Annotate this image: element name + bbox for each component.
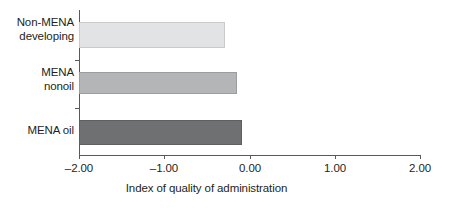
bar-non-mena-developing bbox=[79, 22, 225, 48]
x-axis-tick bbox=[79, 155, 80, 159]
bar-chart: Non-MENA developing MENA nonoil MENA oil… bbox=[0, 0, 449, 216]
plot-area: –2.00 –1.00 0.00 1.00 2.00 bbox=[79, 10, 421, 155]
bar-mena-oil bbox=[79, 120, 242, 145]
x-axis-tick-label: –1.00 bbox=[150, 162, 178, 175]
x-axis-tick-label: –2.00 bbox=[65, 162, 93, 175]
x-axis-tick bbox=[335, 155, 336, 159]
x-axis-title: Index of quality of administration bbox=[0, 182, 449, 194]
bar-mena-nonoil bbox=[79, 72, 237, 94]
category-label-non-mena-developing: Non-MENA developing bbox=[17, 16, 74, 43]
x-axis-tick-label: 0.00 bbox=[239, 162, 261, 175]
y-axis-tick bbox=[75, 108, 79, 109]
x-axis-tick bbox=[164, 155, 165, 159]
x-axis-tick-label: 2.00 bbox=[409, 162, 431, 175]
x-axis-tick bbox=[250, 155, 251, 159]
category-label-mena-nonoil: MENA nonoil bbox=[41, 66, 74, 93]
y-axis-tick bbox=[75, 60, 79, 61]
x-axis-title-text: Index of quality of administration bbox=[126, 182, 288, 194]
x-axis-tick-label: 1.00 bbox=[324, 162, 346, 175]
x-axis-tick bbox=[420, 155, 421, 159]
category-label-mena-oil: MENA oil bbox=[28, 124, 75, 138]
